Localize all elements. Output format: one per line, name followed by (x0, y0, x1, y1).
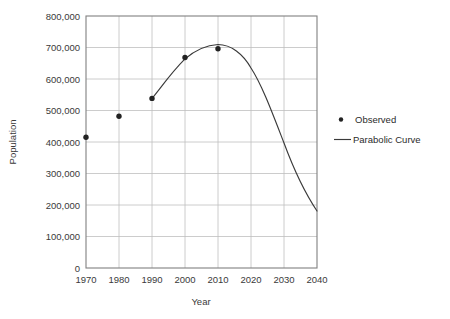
ytick-label-600000: 600,000 (46, 74, 80, 85)
xtick-label-2020: 2020 (240, 274, 261, 285)
ytick-label-800000: 800,000 (46, 11, 80, 22)
ytick-label-100000: 100,000 (46, 231, 80, 242)
y-axis-tick-labels: 800,000 700,000 600,000 500,000 400,000 … (46, 11, 80, 274)
xtick-label-2000: 2000 (174, 274, 195, 285)
xtick-label-2040: 2040 (306, 274, 327, 285)
data-point-1980 (116, 114, 121, 119)
population-parabolic-chart: 800,000 700,000 600,000 500,000 400,000 … (0, 0, 450, 319)
legend-label-parabolic-curve: Parabolic Curve (353, 134, 421, 145)
ytick-label-500000: 500,000 (46, 105, 80, 116)
ytick-label-700000: 700,000 (46, 42, 80, 53)
legend-label-observed: Observed (355, 114, 396, 125)
y-axis-title: Population (7, 120, 18, 165)
ytick-label-0: 0 (75, 263, 80, 274)
data-point-1970 (83, 135, 88, 140)
data-point-1990 (149, 96, 154, 101)
xtick-label-2010: 2010 (207, 274, 228, 285)
xtick-label-1970: 1970 (75, 274, 96, 285)
data-point-2000 (182, 55, 187, 60)
ytick-label-400000: 400,000 (46, 137, 80, 148)
ytick-label-300000: 300,000 (46, 168, 80, 179)
xtick-label-2030: 2030 (273, 274, 294, 285)
data-point-2010 (215, 46, 220, 51)
ytick-label-200000: 200,000 (46, 200, 80, 211)
xtick-label-1980: 1980 (108, 274, 129, 285)
x-axis-title: Year (191, 296, 210, 307)
legend-marker-observed-dot-icon (339, 117, 343, 121)
chart-figure: 800,000 700,000 600,000 500,000 400,000 … (0, 0, 450, 319)
xtick-label-1990: 1990 (141, 274, 162, 285)
